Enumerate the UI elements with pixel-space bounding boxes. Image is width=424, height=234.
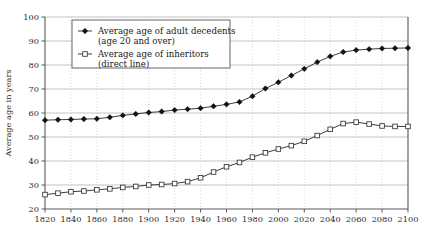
data-point-marker (341, 121, 346, 126)
y-tick-label: 30 (29, 180, 39, 190)
data-point-marker (120, 185, 125, 190)
legend-label-line1-1: Average age of inheritors (97, 49, 209, 59)
data-point-marker (340, 49, 345, 54)
x-tick-label: 2000 (268, 214, 289, 224)
x-tick-label: 2040 (320, 214, 341, 224)
data-point-marker (353, 47, 358, 52)
data-point-marker (68, 117, 73, 122)
data-point-marker (224, 102, 229, 107)
legend-label-line2-1: (direct line) (98, 59, 149, 69)
data-point-marker (276, 147, 281, 152)
data-point-marker (354, 120, 359, 125)
data-point-marker (159, 109, 164, 114)
x-tick-label: 1980 (242, 214, 263, 224)
data-point-marker (198, 176, 203, 181)
data-point-marker (263, 86, 268, 91)
data-point-marker (133, 184, 138, 189)
legend-label-line2-0: (age 20 and over) (98, 36, 175, 46)
x-tick-label: 2080 (372, 214, 393, 224)
data-point-marker (328, 54, 333, 59)
data-point-marker (392, 46, 397, 51)
data-point-marker (366, 46, 371, 51)
y-tick-label: 90 (29, 36, 39, 46)
data-point-marker (108, 187, 113, 192)
y-tick-label: 20 (29, 204, 39, 214)
data-point-marker (328, 127, 333, 132)
x-tick-label: 1820 (35, 214, 56, 224)
y-tick-label: 80 (29, 60, 39, 70)
data-point-marker (159, 182, 164, 187)
x-tick-label: 1840 (61, 214, 82, 224)
data-point-marker (198, 106, 203, 111)
data-point-marker (56, 191, 61, 196)
chart-container: 2030405060708090100 18201840186018801900… (0, 0, 424, 234)
x-axis-tick-labels: 1820184018601880190019201940196019802000… (35, 214, 419, 224)
data-point-marker (55, 117, 60, 122)
x-tick-label: 1860 (86, 214, 107, 224)
data-point-marker (250, 94, 255, 99)
data-point-marker (42, 118, 47, 123)
data-point-marker (224, 164, 229, 169)
x-tick-label: 1920 (164, 214, 185, 224)
y-tick-label: 100 (23, 12, 39, 22)
x-tick-label: 1900 (138, 214, 159, 224)
data-point-marker (185, 106, 190, 111)
data-point-marker (302, 139, 307, 144)
y-axis-tick-labels: 2030405060708090100 (23, 12, 39, 214)
legend-marker-open-square-icon (83, 52, 88, 57)
line-chart: 2030405060708090100 18201840186018801900… (0, 0, 424, 234)
data-point-marker (82, 189, 87, 194)
y-tick-label: 40 (29, 156, 39, 166)
data-point-marker (367, 122, 372, 127)
data-point-marker (133, 111, 138, 116)
data-point-marker (302, 66, 307, 71)
data-point-marker (211, 104, 216, 109)
x-tick-label: 1940 (190, 214, 211, 224)
y-tick-label: 50 (29, 132, 39, 142)
data-point-marker (237, 160, 242, 165)
y-tick-label: 60 (29, 108, 39, 118)
data-point-marker (405, 45, 410, 50)
data-point-marker (276, 80, 281, 85)
y-axis-title: Average age in years (3, 69, 13, 157)
data-point-marker (107, 115, 112, 120)
data-point-marker (95, 188, 100, 193)
data-point-marker (315, 59, 320, 64)
data-point-marker (120, 113, 125, 118)
data-point-marker (211, 170, 216, 175)
x-tick-label: 1880 (112, 214, 133, 224)
data-point-marker (146, 183, 151, 188)
data-point-marker (81, 116, 86, 121)
x-tick-label: 1960 (216, 214, 237, 224)
data-point-marker (289, 73, 294, 78)
data-point-marker (146, 110, 151, 115)
y-axis-title-label: Average age in years (3, 69, 13, 157)
legend-label-line1-0: Average age of adult decedents (97, 26, 235, 36)
y-tick-label: 70 (29, 84, 39, 94)
data-point-marker (380, 124, 385, 129)
data-point-marker (250, 155, 255, 160)
data-point-marker (379, 46, 384, 51)
data-point-marker (406, 124, 411, 129)
data-point-marker (172, 181, 177, 186)
x-tick-label: 2020 (294, 214, 315, 224)
data-point-marker (289, 143, 294, 148)
x-tick-label: 2100 (398, 214, 419, 224)
data-point-marker (185, 179, 190, 184)
x-tick-label: 2060 (346, 214, 367, 224)
data-point-marker (94, 116, 99, 121)
data-point-marker (43, 192, 48, 197)
data-point-marker (315, 133, 320, 138)
legend: Average age of adult decedents(age 20 an… (72, 20, 235, 69)
data-point-marker (237, 99, 242, 104)
data-point-marker (263, 151, 268, 156)
data-point-marker (172, 107, 177, 112)
data-point-marker (393, 124, 398, 129)
data-point-marker (69, 189, 74, 194)
